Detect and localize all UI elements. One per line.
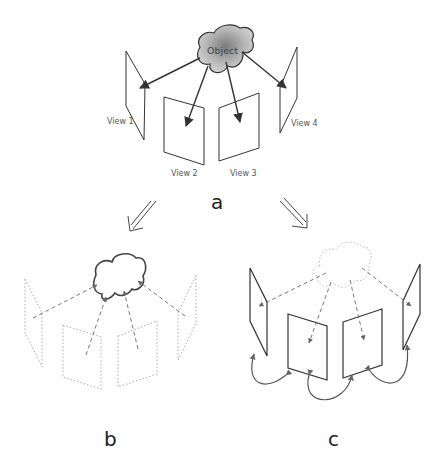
double-arrow-left-icon: [128, 201, 156, 231]
object-label: Object: [207, 45, 238, 56]
backprojection-arrow-3: [124, 291, 138, 349]
view-2-plane-dotted: [63, 325, 101, 389]
view-3-plane-dotted: [118, 321, 157, 387]
object-outline: [94, 254, 146, 299]
panel-b-label: b: [104, 427, 117, 451]
object-outline-dotted: [313, 242, 371, 287]
double-arrow-right-icon: [280, 198, 307, 228]
multi-view-diagram: Object View 1 View 2 View 3 View 4 a: [0, 0, 441, 467]
view-3-label: View 3: [230, 169, 257, 178]
panel-b: b: [25, 254, 196, 451]
cropped-caption-line: [0, 459, 441, 467]
view-2-label: View 2: [171, 169, 198, 178]
view-1-plane-solid: [250, 268, 267, 356]
view-1-plane: [126, 51, 145, 140]
view-3-plane: [219, 93, 259, 161]
view-1-plane-dotted: [25, 279, 42, 367]
backprojection-arrow-2: [86, 297, 106, 355]
view-link-arrow-2-3: [308, 375, 352, 400]
panel-a-label: a: [211, 190, 223, 214]
projection-arrow-1: [140, 58, 200, 88]
view-2-plane-solid: [288, 314, 327, 380]
backprojection-arrow-1: [33, 285, 97, 318]
view-link-arrow-1-2: [252, 354, 286, 384]
view-4-label: View 4: [291, 119, 318, 128]
projection-arrow-c-1: [259, 273, 326, 306]
panel-c-label: c: [328, 427, 339, 451]
panel-a: Object View 1 View 2 View 3 View 4 a: [107, 25, 318, 214]
backprojection-arrow-4: [138, 281, 185, 316]
projection-arrow-c-4: [362, 268, 411, 306]
projection-arrow-4: [242, 52, 286, 88]
view-2-plane: [164, 97, 204, 165]
view-4-plane-solid: [403, 264, 420, 350]
panel-c: c: [250, 242, 420, 451]
view-4-plane-dotted: [178, 275, 196, 360]
view-1-label: View 1: [107, 117, 134, 126]
view-3-plane-solid: [343, 309, 382, 378]
